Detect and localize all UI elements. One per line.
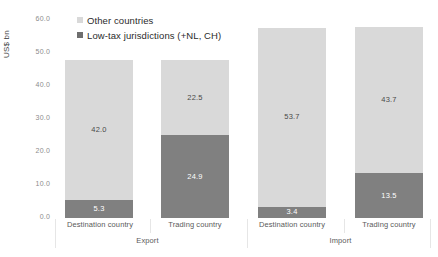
bar-4-label-low-tax: 13.5 [381, 192, 396, 200]
group-label-export: Export [55, 235, 240, 246]
y-axis-title: US$ bn [2, 16, 16, 72]
bar-2-label-low-tax: 24.9 [187, 173, 202, 181]
axis-separator-right [430, 219, 431, 233]
group-axis: Export Import [55, 235, 430, 250]
stacked-bar-chart: US$ bn 60.0 50.0 40.0 30.0 20.0 10.0 0.0… [0, 0, 438, 257]
category-label-import-trading: Trading country [344, 219, 434, 230]
axis-separator-group-mid [247, 219, 248, 233]
bar-2-segment-other: 22.5 [161, 60, 229, 135]
y-tick-10: 10.0 [18, 180, 50, 187]
bar-group-export-trading: 24.9 22.5 [161, 18, 229, 218]
stacked-bar-3: 3.4 53.7 [258, 28, 326, 218]
category-label-export-trading: Trading country [150, 219, 240, 230]
stacked-bar-1: 5.3 42.0 [65, 60, 133, 218]
axis-separator-import-mid [344, 219, 345, 233]
bar-group-export-destination: 5.3 42.0 [65, 18, 133, 218]
y-tick-0: 0.0 [18, 213, 50, 220]
bar-1-label-low-tax: 5.3 [93, 205, 104, 213]
axis-separator-export-mid [150, 219, 151, 233]
group-separator-mid [247, 233, 248, 248]
y-tick-20: 20.0 [18, 147, 50, 154]
bar-4-segment-other: 43.7 [355, 27, 423, 173]
plot-area: 5.3 42.0 24.9 22.5 3.4 [55, 18, 430, 218]
group-separator-right [430, 233, 431, 248]
bar-3-segment-other: 53.7 [258, 28, 326, 207]
bar-3-label-other: 53.7 [284, 113, 299, 121]
bar-1-segment-low-tax: 5.3 [65, 200, 133, 218]
stacked-bar-4: 13.5 43.7 [355, 27, 423, 218]
y-tick-40: 40.0 [18, 81, 50, 88]
category-axis: Destination country Trading country Dest… [55, 219, 430, 234]
bar-2-segment-low-tax: 24.9 [161, 135, 229, 218]
y-axis-tick-labels: 60.0 50.0 40.0 30.0 20.0 10.0 0.0 [18, 0, 50, 257]
bar-group-import-trading: 13.5 43.7 [355, 18, 423, 218]
category-label-import-destination: Destination country [247, 219, 337, 230]
bar-1-label-other: 42.0 [91, 126, 106, 134]
group-separator-left [55, 233, 56, 248]
y-tick-50: 50.0 [18, 48, 50, 55]
stacked-bar-2: 24.9 22.5 [161, 60, 229, 218]
bar-1-segment-other: 42.0 [65, 60, 133, 200]
bar-group-import-destination: 3.4 53.7 [258, 18, 326, 218]
y-tick-30: 30.0 [18, 114, 50, 121]
bar-3-segment-low-tax: 3.4 [258, 207, 326, 218]
group-label-import: Import [247, 235, 434, 246]
y-tick-60: 60.0 [18, 15, 50, 22]
bar-4-label-other: 43.7 [381, 96, 396, 104]
bar-2-label-other: 22.5 [187, 94, 202, 102]
bar-4-segment-low-tax: 13.5 [355, 173, 423, 218]
axis-separator-left [55, 219, 56, 233]
category-label-export-destination: Destination country [55, 219, 145, 230]
bar-3-label-low-tax: 3.4 [286, 208, 297, 216]
